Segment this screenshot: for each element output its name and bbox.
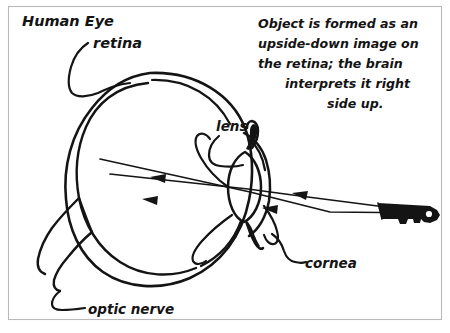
page-title: Human Eye — [22, 13, 114, 29]
diagram-canvas: Human Eye retina lens cornea optic nerve… — [0, 0, 450, 333]
annotation-line-3: the retina; the brain — [258, 56, 403, 71]
key-bow-hole — [426, 211, 432, 217]
label-lens: lens — [216, 118, 247, 134]
annotation-line-1: Object is formed as an — [258, 16, 418, 31]
annotation-line-5: side up. — [327, 96, 384, 111]
label-cornea: cornea — [305, 255, 357, 271]
annotation-line-2: upside-down image on — [258, 36, 419, 51]
label-retina: retina — [93, 35, 142, 51]
human-eye-illustration: Human Eye retina lens cornea optic nerve… — [0, 0, 450, 333]
label-optic-nerve: optic nerve — [88, 301, 174, 317]
annotation-line-4: interprets it right — [285, 76, 411, 91]
